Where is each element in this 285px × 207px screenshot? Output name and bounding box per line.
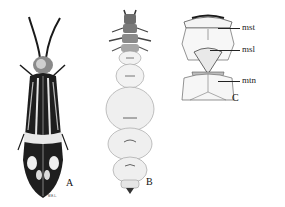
- illustrator-signature: M.E.L.: [48, 194, 57, 198]
- label-msl: msl: [242, 44, 255, 54]
- thorax-illustration: [178, 8, 238, 108]
- label-mtn: mtn: [242, 75, 256, 85]
- panel-label-c: C: [232, 92, 239, 103]
- leader-line-msl: [210, 50, 240, 51]
- beetle-illustration: [8, 10, 78, 200]
- label-mst: mst: [242, 22, 255, 32]
- panel-label-a: A: [66, 177, 73, 188]
- panel-a-adult-beetle: M.E.L.: [8, 10, 78, 200]
- larva-illustration: [100, 6, 160, 196]
- panel-b-larva: [100, 6, 160, 196]
- leader-line-mst: [218, 28, 240, 29]
- panel-label-b: B: [146, 176, 153, 187]
- leader-line-mtn: [218, 81, 240, 82]
- panel-c-thorax: [178, 8, 238, 108]
